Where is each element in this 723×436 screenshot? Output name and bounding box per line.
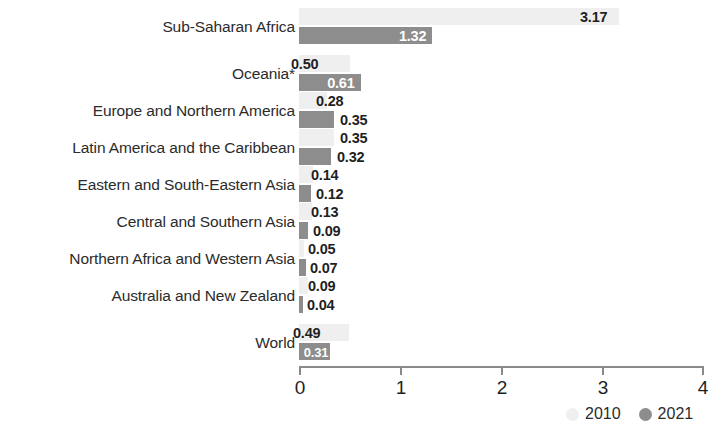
bar-track-2021: 0.35 [299,111,334,128]
bar-track-2010: 0.35 [299,129,334,146]
bar-2021 [299,111,334,128]
bar-track-2021: 0.31 [299,343,330,360]
bar-2021 [299,148,331,165]
bar-value-2010: 0.09 [303,278,335,294]
legend-swatch-icon [566,408,579,421]
category-label: Latin America and the Caribbean [72,139,295,157]
x-axis-tick [501,366,503,375]
bar-value-2021: 0.31 [304,344,329,359]
bar-value-2010: 0.28 [311,93,343,109]
bar-track-2021: 0.61 [299,74,361,91]
bar-2010 [299,129,334,146]
category-label: Eastern and South-Eastern Asia [77,176,295,194]
bar-value-2010: 0.13 [306,204,338,220]
bar-track-2010: 0.50 [299,55,350,72]
bar-value-2021: 0.35 [335,112,367,128]
bar-track-2021: 0.04 [299,296,303,313]
category-label: Sub-Saharan Africa [162,18,295,36]
bar-value-2021: 0.09 [308,223,340,239]
x-axis-tick-label: 1 [396,377,407,399]
x-axis-tick-label: 4 [698,377,709,399]
bar-group: Eastern and South-Eastern Asia 0.14 0.12 [0,166,723,204]
bar-2010 [299,8,619,25]
bar-track-2021: 0.09 [299,222,308,239]
bar-value-2010: 0.35 [335,130,367,146]
chart-legend: 2010 2021 [566,405,703,423]
bar-value-2010: 0.14 [306,167,338,183]
bar-value-2010: 0.50 [286,56,318,72]
bar-track-2010: 3.17 [299,8,619,25]
bar-value-2021: 0.61 [327,75,354,91]
bar-track-2021: 0.32 [299,148,331,165]
x-axis-tick-label: 2 [497,377,508,399]
legend-item-2021: 2021 [639,405,694,423]
bar-group: World 0.49 0.31 [0,324,723,362]
legend-label: 2021 [658,405,694,423]
bar-value-2021: 0.12 [311,186,343,202]
x-axis-tick [299,366,301,375]
bar-group: Central and Southern Asia 0.13 0.09 [0,203,723,241]
x-axis-tick [602,366,604,375]
plot-area: Sub-Saharan Africa 3.17 1.32 Oceania* 0.… [0,0,723,436]
x-axis-tick-label: 3 [598,377,609,399]
bar-track-2010: 0.28 [299,92,327,109]
category-label: Australia and New Zealand [111,287,295,305]
category-label: Northern Africa and Western Asia [69,250,295,268]
bar-track-2010: 0.13 [299,203,312,220]
x-axis-tick [400,366,402,375]
bar-group: Northern Africa and Western Asia 0.05 0.… [0,240,723,278]
bar-value-2021: 1.32 [399,28,426,44]
bar-value-2021: 0.07 [305,260,337,276]
bar-track-2021: 0.07 [299,259,306,276]
bar-track-2010: 0.05 [299,240,304,257]
bar-2021 [299,185,311,202]
legend-label: 2010 [585,405,621,423]
bar-track-2021: 0.12 [299,185,311,202]
bar-group: Latin America and the Caribbean 0.35 0.3… [0,129,723,167]
x-axis-tick [702,366,704,375]
bar-group: Sub-Saharan Africa 3.17 1.32 [0,8,723,46]
bar-value-2010: 3.17 [575,9,607,25]
bar-value-2010: 0.49 [288,325,320,341]
bar-group: Australia and New Zealand 0.09 0.04 [0,277,723,315]
bar-group: Oceania* 0.50 0.61 [0,55,723,93]
category-label: Central and Southern Asia [117,213,295,231]
bar-track-2021: 1.32 [299,27,432,44]
x-axis-tick-label: 0 [295,377,306,399]
bar-track-2010: 0.14 [299,166,313,183]
bar-chart: Sub-Saharan Africa 3.17 1.32 Oceania* 0.… [0,0,723,436]
bar-track-2010: 0.09 [299,277,308,294]
bar-group: Europe and Northern America 0.28 0.35 [0,92,723,130]
category-label: Europe and Northern America [93,102,295,120]
bar-2021 [299,222,308,239]
legend-swatch-icon [639,408,652,421]
bar-track-2010: 0.49 [299,324,349,341]
legend-item-2010: 2010 [566,405,621,423]
bar-value-2021: 0.32 [332,149,364,165]
bar-value-2021: 0.04 [302,297,334,313]
bar-value-2010: 0.05 [303,241,335,257]
